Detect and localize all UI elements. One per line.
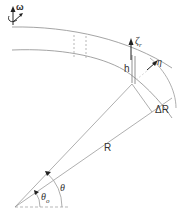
omega-arrowhead [11, 6, 16, 12]
theta0-subscript: o [46, 197, 50, 205]
blade-outer-edge [12, 27, 172, 68]
theta-arc-arrowhead [45, 171, 51, 176]
delta-r-label: ΔR [155, 105, 169, 115]
delta-r-line [132, 84, 152, 112]
eta-dashed-line [136, 70, 148, 80]
zeta-subscript: r [139, 41, 142, 49]
r-label: R [104, 143, 111, 153]
blade-inner-edge [12, 50, 172, 118]
theta0-arc [36, 193, 40, 207]
zeta-label: ζr [135, 36, 142, 49]
blade-geometry-diagram [0, 0, 179, 212]
theta0-label: θo [41, 192, 49, 205]
blade-outer-edge-right [150, 58, 176, 108]
omega-label: ω [16, 3, 24, 12]
h-label: h [124, 64, 130, 74]
eta-label: η [157, 57, 162, 67]
radius-line-theta [15, 84, 132, 207]
omega-diagonal-arrow [13, 15, 21, 22]
zeta-arrowhead [129, 38, 134, 45]
theta-label: θ [60, 183, 65, 193]
